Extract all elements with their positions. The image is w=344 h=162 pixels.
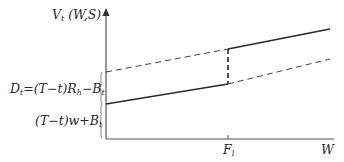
d-symbol: D bbox=[10, 81, 20, 96]
upper-line-solid bbox=[228, 29, 330, 49]
fl-main: F bbox=[223, 142, 232, 157]
d-equation: =(T−t)R bbox=[23, 81, 76, 96]
y-axis-label-main: V bbox=[52, 7, 61, 22]
bracket-lower-label: (T−t)w+Bt bbox=[35, 115, 102, 129]
y-axis-label: Vt (W,S) bbox=[52, 9, 101, 23]
lower-line-dashed bbox=[228, 59, 330, 84]
lower-label-main: (T−t)w+B bbox=[35, 113, 99, 128]
minus-b: −B bbox=[82, 81, 102, 96]
x-tick-label-fl: Fl bbox=[223, 144, 234, 158]
b-sub: t bbox=[102, 88, 105, 97]
lower-line-solid bbox=[106, 84, 228, 104]
y-axis-label-args: (W,S) bbox=[64, 7, 101, 22]
bracket-upper-label: Dt=(T−t)Rh−Bt bbox=[10, 83, 105, 97]
fl-sub: l bbox=[232, 149, 235, 158]
lower-label-sub: t bbox=[99, 120, 102, 129]
x-axis-label: W bbox=[321, 144, 334, 157]
upper-line-dashed bbox=[106, 49, 228, 72]
y-axis-arrow-icon bbox=[103, 8, 110, 16]
